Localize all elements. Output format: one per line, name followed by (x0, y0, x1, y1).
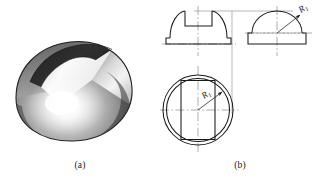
panel-orthographic: R1 R1 (b) (160, 0, 320, 190)
front-view-right-arc (212, 11, 227, 38)
rim-shadow (0, 0, 160, 160)
front-view-base-flange (166, 38, 231, 44)
radius-leader-line-side (277, 15, 300, 33)
top-view-centerlines (160, 66, 238, 154)
side-view-radius-leader (277, 15, 300, 33)
top-view (160, 66, 238, 154)
orthographic-drawing: R1 R1 (160, 0, 320, 160)
front-view-outline (166, 11, 231, 44)
radius-dimension-side-view: R1 (296, 1, 310, 16)
front-view-slot-notch (185, 11, 212, 26)
front-view-left-arc (170, 11, 185, 38)
caption-a: (a) (0, 160, 160, 170)
caption-b: (b) (160, 160, 320, 170)
slotted-dome-solid (0, 0, 160, 160)
figure-root: (a) (0, 0, 320, 190)
panel-pictorial: (a) (0, 0, 160, 190)
front-view (162, 6, 236, 56)
front-view-centerlines (162, 6, 236, 56)
